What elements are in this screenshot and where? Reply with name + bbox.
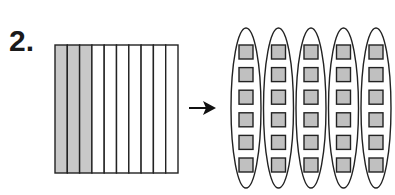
right-arrow-icon xyxy=(189,101,216,115)
group-square xyxy=(369,90,383,104)
group-square xyxy=(337,90,351,104)
group-square xyxy=(369,158,383,172)
group-square xyxy=(304,90,318,104)
grid-column xyxy=(129,45,141,173)
group-square xyxy=(304,158,318,172)
group-square xyxy=(272,45,286,59)
group-square xyxy=(337,113,351,127)
group-square xyxy=(304,45,318,59)
grid-column xyxy=(141,45,153,173)
group-square xyxy=(337,68,351,82)
diagram xyxy=(0,0,395,195)
group-square xyxy=(337,135,351,149)
group-square xyxy=(369,68,383,82)
group-square xyxy=(239,68,253,82)
group-square xyxy=(239,113,253,127)
group-square xyxy=(272,158,286,172)
group-square xyxy=(369,113,383,127)
group-square xyxy=(272,90,286,104)
grid-column xyxy=(55,45,67,173)
group-square xyxy=(272,113,286,127)
group-square xyxy=(304,113,318,127)
grid-column xyxy=(104,45,116,173)
grid-column xyxy=(153,45,165,173)
group-square xyxy=(369,45,383,59)
grid-column xyxy=(92,45,104,173)
grid-column xyxy=(80,45,92,173)
group-square xyxy=(337,45,351,59)
group-square xyxy=(239,158,253,172)
group-square xyxy=(272,135,286,149)
group-square xyxy=(239,45,253,59)
group-square xyxy=(304,68,318,82)
group-square xyxy=(239,135,253,149)
grouped-squares xyxy=(231,28,391,188)
group-square xyxy=(239,90,253,104)
group-square xyxy=(304,135,318,149)
group-square xyxy=(337,158,351,172)
group-square xyxy=(369,135,383,149)
tenths-grid xyxy=(55,45,178,173)
group-square xyxy=(272,68,286,82)
grid-column xyxy=(67,45,79,173)
grid-column xyxy=(117,45,129,173)
grid-column xyxy=(166,45,178,173)
